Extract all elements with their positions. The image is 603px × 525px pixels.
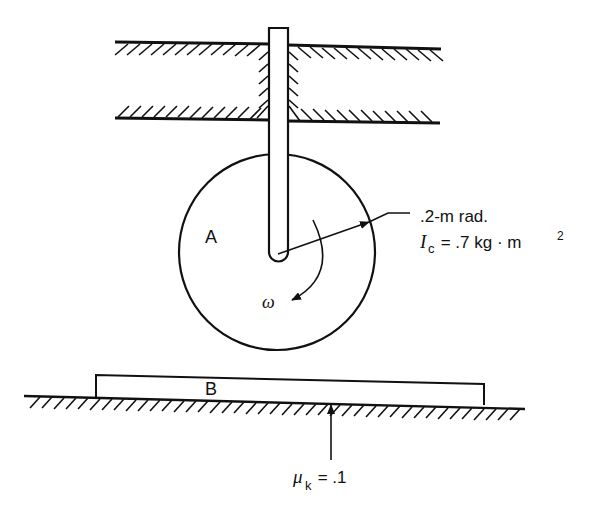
rod — [269, 28, 288, 262]
omega-label: ω — [262, 292, 275, 312]
friction-coefficient-label: μ k = .1 — [292, 466, 347, 493]
diagram-canvas: A ω .2-m rad. I c = .7 kg · m 2 B — [0, 0, 603, 525]
svg-text:= .1: = .1 — [313, 468, 347, 487]
svg-text:I: I — [419, 231, 428, 252]
svg-text:k: k — [305, 478, 312, 493]
svg-text:μ: μ — [292, 466, 303, 487]
plank-label-b: B — [205, 379, 217, 399]
svg-text:c: c — [428, 241, 435, 256]
radius-leader-line — [369, 213, 410, 222]
radius-label: .2-m rad. — [420, 207, 488, 226]
inertia-label: I c = .7 kg · m 2 — [419, 229, 564, 256]
svg-text:= .7 kg · m: = .7 kg · m — [436, 233, 522, 252]
svg-text:2: 2 — [557, 229, 564, 243]
disk-label-a: A — [205, 227, 217, 247]
